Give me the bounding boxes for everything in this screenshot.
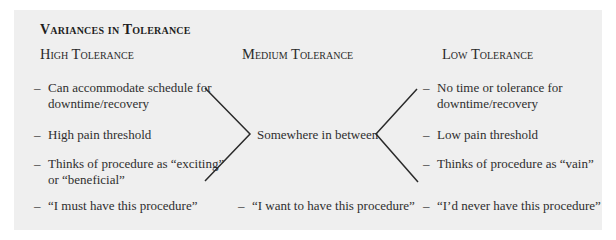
chevron-right-connector bbox=[205, 88, 250, 181]
connector-lines bbox=[0, 0, 616, 240]
chevron-left-connector bbox=[376, 89, 418, 182]
